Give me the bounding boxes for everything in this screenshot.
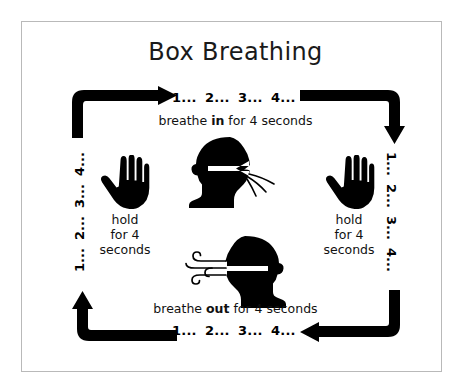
count-item: 4... <box>63 153 95 175</box>
count-row-exhale: 1... 2... 3... 4... <box>172 323 304 338</box>
hold-line-1: hold <box>303 212 395 227</box>
head-inhale-icon <box>186 136 286 208</box>
inhale-caption: breathe in for 4 seconds <box>0 113 471 128</box>
hold-line-1: hold <box>79 212 171 227</box>
arrow-down-left-icon <box>300 290 405 345</box>
hold-line-2: for 4 <box>303 227 395 242</box>
count-item: 2... <box>205 90 238 105</box>
box-breathing-infographic: Box Breathing 1... 2... 3... 4... breath… <box>0 0 471 391</box>
arrow-up-right-icon <box>72 86 177 138</box>
hold-label-left: hold for 4 seconds <box>79 212 171 257</box>
count-row-inhale: 1... 2... 3... 4... <box>172 90 304 105</box>
count-item: 3... <box>238 90 271 105</box>
count-item: 4... <box>271 90 304 105</box>
head-exhale-icon <box>183 234 289 308</box>
inhale-suffix: for 4 seconds <box>224 113 312 128</box>
arrow-left-up-icon <box>72 290 177 345</box>
hold-line-3: seconds <box>79 242 171 257</box>
hold-label-right: hold for 4 seconds <box>303 212 395 257</box>
count-item: 1... <box>376 153 408 175</box>
inhale-emphasis: in <box>211 113 224 128</box>
exhale-emphasis: out <box>206 301 229 316</box>
count-item: 1... <box>172 90 205 105</box>
hold-line-3: seconds <box>303 242 395 257</box>
count-item: 3... <box>238 323 271 338</box>
count-item: 3... <box>63 185 95 207</box>
page-title: Box Breathing <box>0 38 471 66</box>
count-item: 2... <box>205 323 238 338</box>
inhale-prefix: breathe <box>159 113 212 128</box>
open-hand-icon <box>325 155 375 209</box>
hold-line-2: for 4 <box>79 227 171 242</box>
open-hand-icon <box>100 155 150 209</box>
count-item: 2... <box>376 185 408 207</box>
